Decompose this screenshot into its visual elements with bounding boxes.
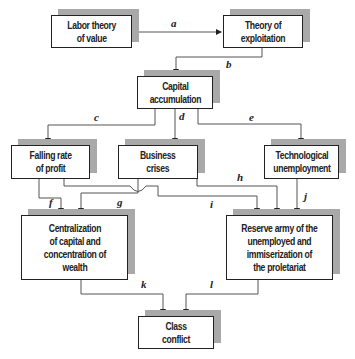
edge-label-h: h [237, 171, 243, 183]
node-business-crises: Business crises [118, 145, 198, 179]
edge-label-d: d [179, 110, 185, 122]
node-centralization-of-capital: Centralization of capital and concentrat… [21, 215, 128, 280]
connector-lines [0, 0, 355, 359]
node-label: Capital accumulation [149, 80, 201, 106]
node-falling-rate-of-profit: Falling rate of profit [11, 145, 90, 179]
node-theory-of-exploitation: Theory of exploitation [223, 15, 303, 48]
node-technological-unemployment: Technological unemployment [264, 145, 339, 179]
edge-label-i: i [210, 198, 213, 210]
edge-k [81, 280, 163, 314]
node-label: Technological unemployment [273, 149, 330, 175]
edge-label-c: c [94, 111, 99, 123]
node-label: Business crises [140, 149, 176, 175]
edge-label-l: l [210, 278, 213, 290]
edge-label-a: a [171, 17, 177, 29]
edge-label-b: b [226, 58, 232, 70]
node-reserve-army: Reserve army of the unemployed and immis… [226, 215, 333, 280]
node-label: Reserve army of the unemployed and immis… [241, 222, 317, 274]
edge-label-k: k [141, 278, 147, 290]
edge-g [81, 179, 138, 213]
node-labor-theory-of-value: Labor theory of value [51, 15, 132, 48]
node-capital-accumulation: Capital accumulation [137, 76, 213, 109]
node-label: Class conflict [162, 320, 190, 346]
edge-i [64, 179, 257, 213]
node-label: Labor theory of value [67, 19, 116, 45]
node-label: Centralization of capital and concentrat… [43, 222, 105, 274]
edge-label-e: e [249, 111, 254, 123]
node-label: Theory of exploitation [241, 19, 285, 45]
node-label: Falling rate of profit [30, 149, 72, 175]
edge-label-g: g [117, 196, 123, 208]
edge-l [186, 280, 258, 314]
edge-label-f: f [49, 196, 53, 208]
edge-label-j: j [304, 190, 307, 202]
edge-c [48, 109, 155, 143]
node-class-conflict: Class conflict [138, 316, 214, 349]
